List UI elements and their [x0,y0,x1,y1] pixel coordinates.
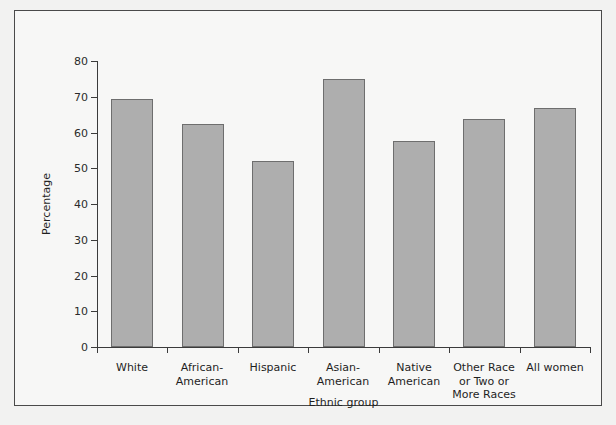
x-tick-mark [590,347,591,353]
x-tick-mark [97,347,98,353]
bar [323,79,365,347]
x-axis-line [97,347,590,348]
bar [463,119,505,347]
y-tick-mark [91,311,97,312]
bar [182,124,224,347]
x-tick-mark [449,347,450,353]
y-tick-mark [91,276,97,277]
x-category-label: Native American [379,361,449,388]
y-tick-label: 10 [74,306,88,317]
x-tick-mark [238,347,239,353]
y-tick-mark [91,204,97,205]
x-category-label: African- American [167,361,237,388]
y-tick-label: 70 [74,91,88,102]
x-tick-mark [379,347,380,353]
y-tick-label: 40 [74,199,88,210]
y-tick-mark [91,168,97,169]
y-tick-label: 0 [81,342,88,353]
y-tick-mark [91,97,97,98]
bar [111,99,153,347]
plot-area: 01020304050607080 WhiteAfrican- American… [97,61,590,347]
x-category-label: All women [520,361,590,375]
bar [252,161,294,347]
y-tick-mark [91,240,97,241]
x-category-label: Hispanic [238,361,308,375]
y-axis-title: Percentage [40,173,53,235]
chart-figure: Percentage Ethnic group 0102030405060708… [0,0,616,425]
y-tick-label: 80 [74,56,88,67]
x-category-label: White [97,361,167,375]
x-tick-mark [167,347,168,353]
bar [534,108,576,347]
y-tick-mark [91,133,97,134]
chart-frame: Percentage Ethnic group 0102030405060708… [14,10,602,406]
y-tick-label: 30 [74,234,88,245]
x-category-label: Asian- American [308,361,378,388]
y-axis-line [97,61,98,348]
x-tick-mark [520,347,521,353]
bar [393,141,435,347]
y-tick-mark [91,61,97,62]
x-category-label: Other Race or Two or More Races [449,361,519,402]
y-tick-label: 50 [74,163,88,174]
y-tick-label: 60 [74,127,88,138]
x-tick-mark [308,347,309,353]
y-tick-label: 20 [74,270,88,281]
